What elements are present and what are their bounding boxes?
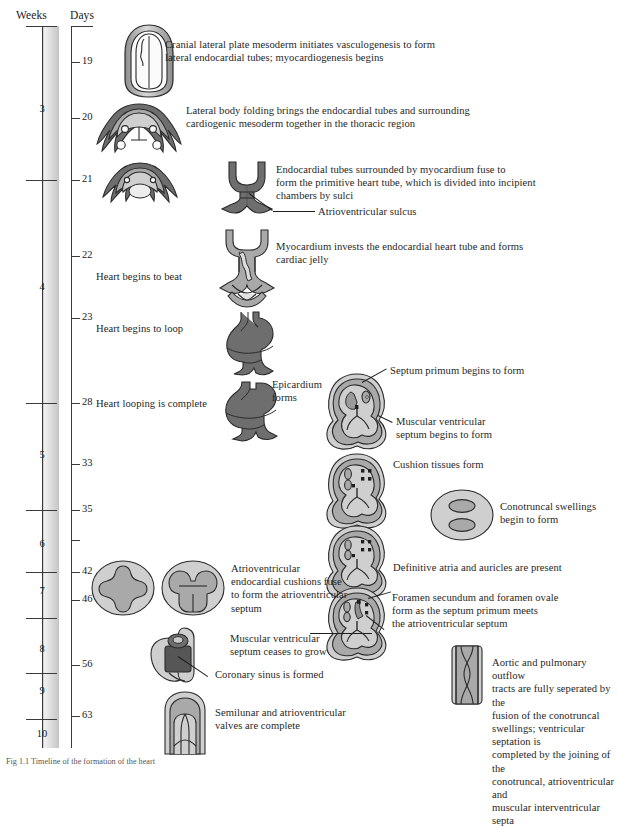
day-tick <box>71 256 80 257</box>
days-axis-line <box>71 26 72 748</box>
day-tick <box>71 118 80 119</box>
day-label: 28 <box>82 396 93 407</box>
week-label: 7 <box>32 585 52 596</box>
day-tick <box>71 318 80 319</box>
note-cushion-tissues-form: Cushion tissues form <box>393 458 583 471</box>
week-label: 9 <box>32 685 52 696</box>
week-label: 3 <box>32 103 52 114</box>
week-tick <box>26 26 57 27</box>
note-muscular-ventricular-septum: Muscular ventricular septum begins to fo… <box>396 415 586 441</box>
coronary-sinus-illustration <box>140 620 208 686</box>
conotruncal-swellings-oval-illustration <box>429 487 495 543</box>
day-tick <box>71 180 80 181</box>
note-epicardium-forms: Epicardium forms <box>272 378 392 404</box>
day-label: 22 <box>82 249 93 260</box>
week-label: 5 <box>32 449 52 460</box>
note-heart-looping-complete: Heart looping is complete <box>96 397 276 410</box>
day-label: 63 <box>82 709 93 720</box>
looping-heart-tube-illustration <box>218 310 282 376</box>
week-tick <box>26 403 57 404</box>
day-tick <box>71 665 80 666</box>
aortic-pulmonary-outflow-illustration <box>448 644 486 706</box>
week-label: 10 <box>32 728 52 739</box>
week-tick <box>26 673 57 674</box>
weeks-axis-line <box>42 26 43 748</box>
heart-section-cushion-tissues-illustration <box>321 452 393 530</box>
days-axis-title: Days <box>70 9 94 21</box>
day-tick <box>71 403 80 404</box>
day-tick <box>71 510 80 511</box>
leader-atrioventricular-sulcus <box>273 211 315 212</box>
week-tick <box>26 510 57 511</box>
myocardium-cardiac-jelly-tube-illustration <box>214 228 280 310</box>
week-tick <box>26 572 57 573</box>
note-coronary-sinus: Coronary sinus is formed <box>215 668 395 681</box>
week-tick <box>26 719 57 720</box>
days-axis-cap <box>71 26 93 27</box>
note-semilunar-valves: Semilunar and atrioventricular valves ar… <box>215 706 415 732</box>
day-tick <box>71 464 80 465</box>
day-tick <box>71 600 80 601</box>
note-definitive-atria: Definitive atria and auricles are presen… <box>393 561 618 574</box>
note-foramen-secundum-ovale: Foramen secundum and foramen ovale form … <box>392 591 618 631</box>
timeline-band <box>43 26 59 748</box>
day-label: 20 <box>82 111 93 122</box>
note-heart-begins-to-loop: Heart begins to loop <box>96 322 266 335</box>
av-cushions-open-illustration <box>90 558 156 618</box>
note-aortic-pulmonary-outflow: Aortic and pulmonary outflow tracts are … <box>492 656 618 828</box>
day-label: 21 <box>82 173 93 184</box>
note-muscular-septum-ceases: Muscular ventricular septum ceases to gr… <box>230 632 400 658</box>
av-cushions-fused-illustration <box>160 558 226 618</box>
day-label: 56 <box>82 658 93 669</box>
note-conotruncal-swellings: Conotruncal swellings begin to form <box>500 500 618 526</box>
primitive-heart-tube-illustration <box>216 160 278 222</box>
lateral-body-folding-section-illustration <box>93 100 185 158</box>
week-tick <box>26 180 57 181</box>
day-tick <box>71 62 80 63</box>
figure-caption: Fig 1.1 Timeline of the formation of the… <box>6 757 606 769</box>
day-tick <box>71 716 80 717</box>
note-lateral-body-folding: Lateral body folding brings the endocard… <box>186 104 536 130</box>
day-label: 23 <box>82 311 93 322</box>
day-label: 19 <box>82 55 93 66</box>
semilunar-valves-illustration <box>160 690 210 756</box>
body-folding-section-2-illustration <box>100 160 180 206</box>
note-septum-primum: Septum primum begins to form <box>390 364 610 377</box>
week-label: 4 <box>32 281 52 292</box>
week-label: 8 <box>32 643 52 654</box>
day-tick <box>71 540 80 541</box>
day-label: 33 <box>82 457 93 468</box>
week-tick <box>26 618 57 619</box>
note-cranial-lateral-plate-mesoderm: Cranial lateral plate mesoderm initiates… <box>165 38 495 64</box>
note-heart-begins-to-beat: Heart begins to beat <box>96 270 266 283</box>
note-myocardium-cardiac-jelly: Myocardium invests the endocardial heart… <box>276 240 596 266</box>
note-endocardial-tubes-fuse: Endocardial tubes surrounded by myocardi… <box>276 163 586 203</box>
note-av-cushions-fuse: Atrioventricular endocardial cushions fu… <box>231 562 391 615</box>
weeks-axis-title: Weeks <box>16 9 47 21</box>
day-tick <box>71 572 80 573</box>
week-label: 6 <box>32 538 52 549</box>
day-label: 35 <box>82 503 93 514</box>
note-atrioventricular-sulcus: Atrioventricular sulcus <box>318 205 498 218</box>
